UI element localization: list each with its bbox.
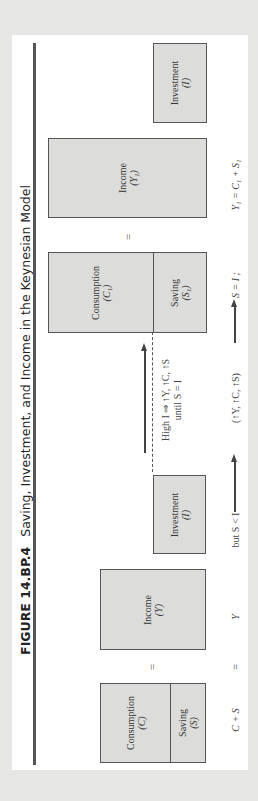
equation-changes: (↑Y, ↑C, ↑S) xyxy=(230,373,241,423)
figure-title-text: Saving, Investment, and Income in the Ke… xyxy=(18,185,33,537)
consumption-symbol: (C) xyxy=(136,696,147,750)
investment-final-symbol: (I) xyxy=(180,61,191,105)
equals-sign-initial: = xyxy=(146,664,158,670)
equation-but: but S < I xyxy=(230,513,241,548)
saving-box: Saving (S) xyxy=(170,683,206,763)
equation-s-equals-i: S = I ; xyxy=(230,272,241,298)
equals-sign-final: = xyxy=(122,234,134,240)
saving-final-symbol: (S₁) xyxy=(180,279,191,307)
equation-arrow-1-icon xyxy=(231,454,237,462)
title-rule xyxy=(33,43,36,765)
consumption-label: Consumption xyxy=(125,696,136,750)
transition-text: High I ⇒ ↑Y, ↑C, ↑S until S = I xyxy=(160,359,184,441)
income-symbol: (Y) xyxy=(153,595,164,625)
saving-final-label: Saving xyxy=(169,279,180,307)
consumption-box: Consumption (C) xyxy=(100,683,171,763)
income-box: Income (Y) xyxy=(100,569,206,650)
consumption-final-label: Consumption xyxy=(90,266,101,320)
equation-arrow-1-shaft xyxy=(234,460,236,512)
investment-label: Investment xyxy=(169,492,180,536)
saving-box-final: Saving (S₁) xyxy=(153,252,207,333)
consumption-box-final: Consumption (C₁) xyxy=(48,252,154,333)
transition-arrow-shaft xyxy=(144,350,146,453)
figure-label: FIGURE 14.BP.4 xyxy=(18,547,33,655)
figure-title: FIGURE 14.BP.4Saving, Investment, and In… xyxy=(18,185,33,655)
equation-c-plus-s: C + S xyxy=(230,708,241,731)
consumption-final-symbol: (C₁) xyxy=(101,266,112,320)
equation-equals: = xyxy=(230,664,241,670)
saving-symbol: (S) xyxy=(188,709,199,737)
equation-final: Y₁ = C₁ + S₁ xyxy=(230,159,241,210)
transition-up-arrow-icon xyxy=(141,343,147,351)
income-final-label: Income xyxy=(117,163,128,193)
investment-final-label: Investment xyxy=(169,61,180,105)
income-label: Income xyxy=(142,595,153,625)
investment-symbol: (I) xyxy=(180,492,191,536)
investment-box-initial: Investment (I) xyxy=(153,475,206,554)
income-final-symbol: (Y₁) xyxy=(128,163,139,193)
equation-arrow-2-shaft xyxy=(234,305,236,343)
investment-box-final: Investment (I) xyxy=(153,43,207,123)
income-box-final: Income (Y₁) xyxy=(48,138,207,218)
dashed-divider xyxy=(152,332,153,472)
equation-y: Y xyxy=(230,614,241,620)
equation-arrow-2-icon xyxy=(231,299,237,307)
saving-label: Saving xyxy=(177,709,188,737)
